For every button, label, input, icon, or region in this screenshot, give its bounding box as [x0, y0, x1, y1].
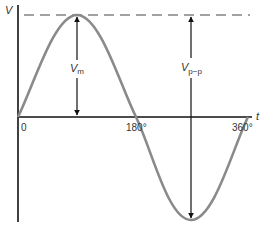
- y-axis-label: V: [5, 4, 14, 16]
- tick-label-180: 180°: [126, 122, 147, 133]
- sine-wave-diagram: V t 0 180° 360° Vm Vp−p: [0, 0, 274, 237]
- tick-label-360: 360°: [232, 122, 253, 133]
- tick-label-0: 0: [21, 122, 27, 133]
- peak-amplitude-label: Vm: [70, 62, 84, 76]
- peak-to-peak-label: Vp−p: [181, 61, 202, 76]
- x-axis-label: t: [256, 110, 260, 122]
